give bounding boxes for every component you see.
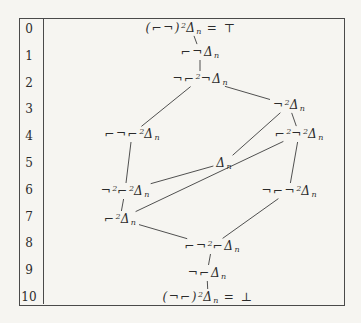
level-number-9: 9	[25, 264, 33, 276]
diagram-frame	[19, 18, 345, 306]
level-number-8: 8	[25, 237, 33, 249]
level-number-2: 2	[25, 77, 33, 89]
lattice-node-l9: ¬⌐Δn	[188, 267, 226, 279]
level-number-3: 3	[25, 103, 33, 115]
level-number-4: 4	[25, 130, 33, 142]
lattice-node-l2: ¬⌐2¬Δn	[172, 73, 227, 85]
lattice-node-l5: Δn	[216, 157, 231, 169]
lattice-node-l4b: ⌐2¬2Δn	[275, 128, 324, 140]
lattice-node-l4a: ⌐¬⌐2Δn	[104, 128, 159, 140]
lattice-node-l3: ¬2Δn	[273, 99, 305, 111]
lattice-figure: 012345678910 (⌐¬)2Δn = ⊤⌐¬Δn¬⌐2¬Δn¬2Δn⌐¬…	[0, 0, 361, 323]
level-number-5: 5	[25, 157, 33, 169]
lattice-node-top: (⌐¬)2Δn = ⊤	[146, 22, 237, 34]
level-number-7: 7	[25, 211, 33, 223]
level-number-6: 6	[25, 184, 33, 196]
lattice-node-l7: ⌐2Δn	[104, 213, 136, 225]
lattice-node-l1: ⌐¬Δn	[181, 46, 219, 58]
level-number-10: 10	[21, 291, 36, 303]
level-number-1: 1	[25, 50, 33, 62]
lattice-node-l8: ⌐¬2⌐Δn	[184, 240, 239, 252]
level-column-divider	[43, 18, 44, 304]
lattice-node-l6a: ¬2⌐2Δn	[101, 185, 150, 197]
lattice-node-bot: (¬⌐)2Δn = ⊥	[163, 291, 254, 303]
level-number-0: 0	[25, 23, 33, 35]
lattice-node-l6b: ¬⌐¬2Δn	[261, 185, 316, 197]
